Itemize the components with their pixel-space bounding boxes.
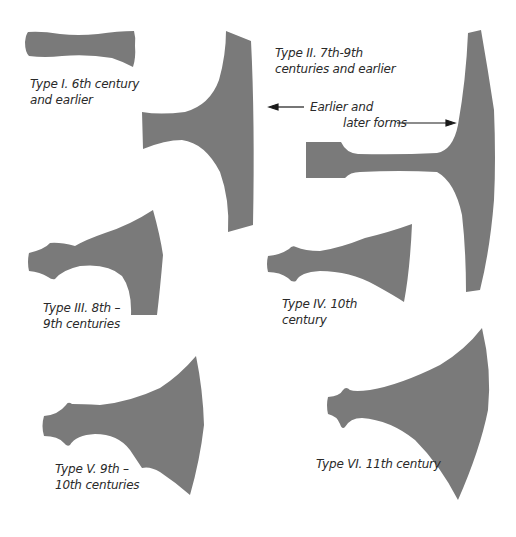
type-6-label: Type VI. 11th century xyxy=(316,456,441,472)
type-5-label-line-1: Type V. 9th – xyxy=(55,461,139,477)
type-4-label-line-2: century xyxy=(282,312,357,328)
type-1-label: Type I. 6th century and earlier xyxy=(30,76,139,108)
earlier-forms-annotation: Earlier and xyxy=(310,99,373,115)
type-6-label-line-1: Type VI. 11th century xyxy=(316,456,441,472)
axe-type-6-shape xyxy=(327,328,489,500)
type-2-label: Type II. 7th-9th centuries and earlier xyxy=(275,45,395,77)
later-forms-annotation: later forms xyxy=(343,115,407,131)
type-2-label-line-2: centuries and earlier xyxy=(275,61,395,77)
axe-type-4-shape xyxy=(267,224,412,302)
type-4-label-line-1: Type IV. 10th xyxy=(282,296,357,312)
type-1-label-line-1: Type I. 6th century xyxy=(30,76,139,92)
type-5-label: Type V. 9th – 10th centuries xyxy=(55,461,139,493)
axe-type-2-early-shape xyxy=(142,31,254,232)
type-5-label-line-2: 10th centuries xyxy=(55,477,139,493)
type-3-label-line-1: Type III. 8th – xyxy=(43,300,120,316)
type-2-label-line-1: Type II. 7th-9th xyxy=(275,45,395,61)
type-3-label: Type III. 8th – 9th centuries xyxy=(43,300,120,332)
type-1-label-line-2: and earlier xyxy=(30,92,139,108)
type-4-label: Type IV. 10th century xyxy=(282,296,357,328)
type-3-label-line-2: 9th centuries xyxy=(43,316,120,332)
arrow-earlier-forms-icon xyxy=(269,104,304,110)
axe-type-1-shape xyxy=(25,31,135,67)
